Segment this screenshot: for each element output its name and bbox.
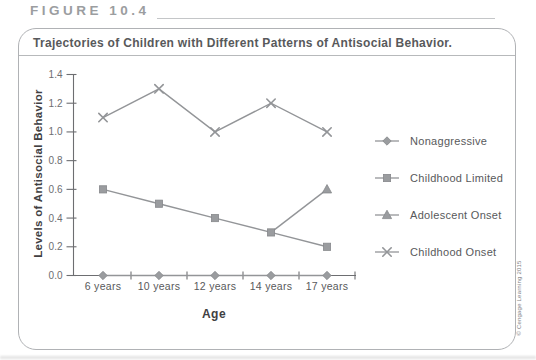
y-tick-label: 1.4 (49, 69, 63, 80)
diamond-marker (155, 271, 163, 279)
square-marker (267, 229, 274, 236)
axes (67, 75, 357, 280)
square-marker (323, 243, 330, 250)
legend-item-nonaggressive: Nonaggressive (374, 135, 503, 147)
copyright-credit: © Cengage Learning 2015 (516, 250, 528, 346)
legend-item-childhood-limited: Childhood Limited (374, 172, 503, 184)
x-marker (267, 99, 275, 107)
diamond-marker (211, 271, 219, 279)
square-marker (383, 174, 390, 181)
series-adolescent-onset (271, 185, 332, 233)
series-nonaggressive (99, 271, 331, 279)
x-category-label: 12 years (194, 280, 237, 292)
series-line (103, 89, 327, 132)
legend-square-swatch (374, 172, 400, 184)
y-axis-title: Levels of Antisocial Behavior (32, 59, 47, 289)
y-tick-label: 1.0 (49, 126, 63, 137)
x-marker (211, 128, 219, 136)
legend-item-adolescent-onset: Adolescent Onset (374, 209, 503, 221)
series-childhood-onset (99, 85, 331, 136)
x-category-label: 10 years (138, 280, 181, 292)
y-tick-label: 0.8 (49, 155, 63, 166)
legend-label: Childhood Onset (410, 246, 496, 258)
x-marker (99, 113, 107, 121)
y-tick-label: 0.6 (49, 184, 63, 195)
legend-label: Childhood Limited (410, 172, 503, 184)
x-marker (323, 128, 331, 136)
legend-label: Adolescent Onset (410, 209, 502, 221)
triangle-marker (322, 185, 331, 193)
chart-legend: NonaggressiveChildhood LimitedAdolescent… (374, 135, 503, 283)
legend-x-swatch (374, 246, 400, 258)
series-childhood-limited (99, 186, 330, 251)
x-category-label: 14 years (250, 280, 293, 292)
diamond-marker (267, 271, 275, 279)
square-marker (211, 214, 218, 221)
x-marker (155, 85, 163, 93)
y-tick-label: 0.0 (49, 270, 63, 281)
x-category-label: 17 years (306, 280, 349, 292)
legend-item-childhood-onset: Childhood Onset (374, 246, 503, 258)
legend-diamond-swatch (374, 135, 400, 147)
diamond-marker (99, 271, 107, 279)
y-tick-label: 1.2 (49, 98, 63, 109)
figure-page: FIGURE 10.4 Trajectories of Children wit… (0, 0, 536, 360)
series-line (271, 189, 327, 232)
x-axis-title: Age (174, 307, 254, 321)
legend-label: Nonaggressive (410, 135, 487, 147)
square-marker (99, 186, 106, 193)
page-edge-shadow (0, 356, 536, 359)
diamond-marker (323, 271, 331, 279)
square-marker (155, 200, 162, 207)
y-tick-label: 0.4 (49, 213, 63, 224)
y-tick-label: 0.2 (49, 241, 63, 252)
x-category-label: 6 years (85, 280, 122, 292)
legend-triangle-swatch (374, 209, 400, 221)
diamond-marker (383, 137, 391, 145)
